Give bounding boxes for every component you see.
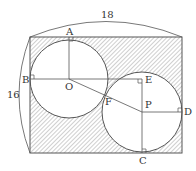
label-d: D [184, 106, 192, 117]
geometry-diagram: 18 16 A B O E F P D C [0, 0, 196, 171]
label-height: 16 [7, 89, 20, 100]
height-arc [19, 37, 30, 153]
label-a: A [65, 26, 74, 37]
label-width: 18 [101, 9, 114, 20]
label-b: B [22, 74, 29, 85]
label-f: F [105, 96, 112, 107]
label-e: E [145, 74, 152, 85]
width-arc [30, 22, 182, 38]
label-p: P [145, 99, 152, 110]
label-o: O [65, 81, 73, 92]
label-c: C [139, 155, 147, 166]
